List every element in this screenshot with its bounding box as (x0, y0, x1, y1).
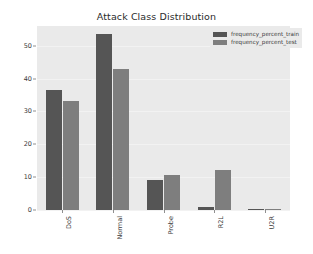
legend-entry: frequency_percent_test (213, 38, 299, 46)
plot-inner (37, 26, 290, 210)
bar-dos-train (46, 90, 62, 210)
y-axis-tick-label: 0 (8, 206, 32, 214)
legend-label: frequency_percent_train (231, 30, 299, 38)
y-axis-tick-mark (33, 111, 36, 112)
y-axis-tick-label: 30 (8, 107, 32, 115)
bar-u2r-test (265, 209, 281, 210)
x-axis-tick-label-u2r: U2R (268, 216, 276, 229)
x-axis-tick-label-normal: Normal (116, 216, 124, 240)
matplotlib-figure: Attack Class Distribution 01020304050DoS… (0, 0, 313, 254)
y-axis-tick-mark (33, 78, 36, 79)
legend-label: frequency_percent_test (231, 38, 297, 46)
y-axis-tick-mark (33, 45, 36, 46)
x-axis-tick-label-r2l: R2L (217, 216, 225, 228)
x-axis-tick-mark (214, 210, 215, 213)
legend-entry: frequency_percent_train (213, 30, 299, 38)
legend-swatch-icon (213, 32, 227, 37)
y-axis-tick-label: 10 (8, 173, 32, 181)
x-axis-tick-mark (265, 210, 266, 213)
legend-swatch-icon (213, 40, 227, 45)
y-axis-tick-label: 50 (8, 42, 32, 50)
bar-probe-test (164, 175, 180, 210)
bar-r2l-train (198, 207, 214, 210)
y-axis-tick-mark (33, 177, 36, 178)
bar-normal-train (96, 34, 112, 210)
bar-probe-train (147, 180, 163, 210)
y-axis-tick-label: 20 (8, 140, 32, 148)
y-axis-tick-mark (33, 210, 36, 211)
chart-legend: frequency_percent_trainfrequency_percent… (210, 28, 302, 48)
y-axis-tick-label: 40 (8, 75, 32, 83)
plot-area (37, 26, 290, 210)
bar-r2l-test (215, 170, 231, 210)
gridline (37, 79, 290, 80)
x-axis-tick-label-probe: Probe (167, 216, 175, 234)
y-axis-tick-mark (33, 144, 36, 145)
x-axis-tick-mark (164, 210, 165, 213)
x-axis-tick-mark (113, 210, 114, 213)
bar-dos-test (63, 101, 79, 210)
bar-normal-test (113, 69, 129, 210)
x-axis-tick-label-dos: DoS (65, 216, 73, 229)
page-title: Attack Class Distribution (0, 11, 313, 22)
x-axis-tick-mark (62, 210, 63, 213)
bar-u2r-train (248, 209, 264, 210)
